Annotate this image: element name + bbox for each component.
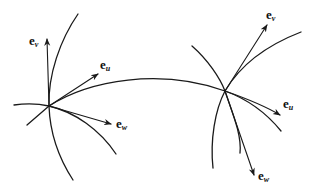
coordinate-basis-diagram: ev eu ew ev eu ew (0, 0, 312, 195)
right-crossing-curve (192, 46, 240, 153)
right-ev-arrow (225, 25, 267, 91)
left-ew-label: ew (116, 116, 128, 132)
right-ev-label: ev (266, 7, 276, 23)
left-horizontal-stub (14, 104, 49, 106)
right-eu-label: eu (283, 96, 294, 112)
right-basis-vectors (225, 25, 280, 175)
right-ew-label: ew (258, 168, 270, 184)
left-w-curve (49, 106, 116, 154)
left-ev-label: ev (29, 33, 39, 49)
left-ew-arrow (49, 106, 111, 124)
left-down-left-stub (27, 106, 49, 125)
left-eu-label: eu (100, 57, 111, 73)
main-u-curve (49, 79, 281, 131)
left-eu-arrow (49, 74, 98, 106)
left-basis-vectors (47, 39, 111, 124)
left-ev-arrow (47, 39, 49, 106)
